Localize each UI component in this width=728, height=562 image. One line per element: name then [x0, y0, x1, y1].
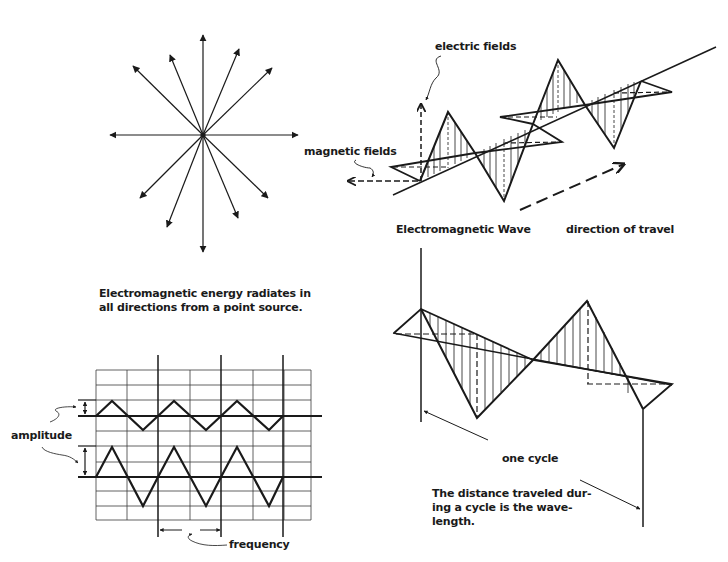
one-cycle-label: one cycle — [502, 452, 558, 466]
electric-fields-label: electric fields — [435, 40, 516, 54]
frequency-label: frequency — [229, 538, 290, 552]
point-source-diagram — [110, 35, 298, 252]
frequency-marker — [160, 530, 227, 546]
radiating-arrows — [110, 35, 298, 252]
electric-field-wave — [420, 60, 641, 201]
wavelength-definition-line3: length. — [432, 515, 475, 529]
direction-of-travel-label: direction of travel — [566, 223, 674, 237]
magnetic-fields-label: magnetic fields — [304, 145, 397, 159]
amplitude-label: amplitude — [11, 429, 72, 443]
magnetic-label-pointer — [355, 160, 374, 177]
wavelength-definition-line1: The distance traveled dur- — [432, 487, 591, 501]
em-wave-title: Electromagnetic Wave — [396, 223, 531, 237]
electric-label-pointer — [426, 56, 441, 100]
diagram-canvas — [0, 0, 728, 562]
grid — [96, 370, 311, 520]
amplitude-frequency-diagram — [42, 355, 322, 546]
point-source-caption-line1: Electromagnetic energy radiates in — [99, 287, 311, 301]
direction-of-travel-arrow — [520, 164, 624, 210]
wavelength-definition-line2: ing a cycle is the wave- — [432, 501, 572, 515]
point-source — [201, 133, 205, 137]
point-source-caption-line2: all directions from a point source. — [99, 301, 303, 315]
wavelength-diagram — [393, 248, 672, 527]
em-wave-diagram — [348, 47, 716, 210]
magnetic-field-dashes — [393, 92, 672, 167]
